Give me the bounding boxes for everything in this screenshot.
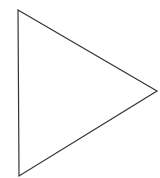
triangle-shape [18,10,157,176]
triangle-diagram [0,0,160,178]
diagram-canvas [0,0,160,178]
